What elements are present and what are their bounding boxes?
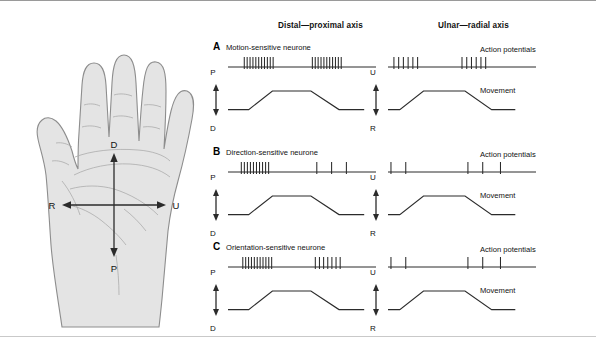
panel-title-c: Orientation-sensitive neurone bbox=[226, 243, 325, 252]
spike-train-c-distal-proximal bbox=[228, 256, 384, 277]
movement-trace-c-ulnar-radial bbox=[388, 285, 544, 323]
figure-root: D P R U Distal—proximal axis Ulnar—radia… bbox=[0, 0, 596, 337]
panel-letter-c: C bbox=[213, 241, 220, 252]
axis-label-top-b-distal-proximal: P bbox=[208, 173, 218, 182]
axis-label-top-a-distal-proximal: P bbox=[208, 68, 218, 77]
spike-train-c-ulnar-radial bbox=[388, 256, 544, 277]
label-movement-a: Movement bbox=[480, 86, 515, 95]
hand-axis-label-ulnar: U bbox=[173, 200, 180, 211]
axis-label-bottom-a-ulnar-radial: R bbox=[368, 124, 378, 133]
movement-trace-b-distal-proximal bbox=[228, 190, 384, 228]
column-header-ulnar-radial: Ulnar—radial axis bbox=[438, 21, 509, 30]
label-movement-b: Movement bbox=[480, 191, 515, 200]
movement-trace-a-distal-proximal bbox=[228, 85, 384, 123]
axis-label-bottom-b-distal-proximal: D bbox=[208, 229, 218, 238]
movement-trace-b-ulnar-radial bbox=[388, 190, 544, 228]
spike-train-a-ulnar-radial bbox=[388, 56, 544, 77]
spike-train-b-ulnar-radial bbox=[388, 161, 544, 182]
label-action-potentials-a: Action potentials bbox=[480, 45, 536, 54]
hand-axis-label-distal: D bbox=[111, 139, 118, 150]
hand-axis-label-proximal: P bbox=[111, 263, 117, 274]
spike-train-a-distal-proximal bbox=[228, 56, 384, 77]
panel-title-a: Motion-sensitive neurone bbox=[226, 43, 311, 52]
movement-trace-c-distal-proximal bbox=[228, 285, 384, 323]
axis-label-bottom-a-distal-proximal: D bbox=[208, 124, 218, 133]
spike-train-b-distal-proximal bbox=[228, 161, 384, 182]
axis-label-top-c-ulnar-radial: U bbox=[368, 268, 378, 277]
hand-outline bbox=[37, 55, 193, 327]
label-action-potentials-b: Action potentials bbox=[480, 150, 536, 159]
column-header-distal-proximal: Distal—proximal axis bbox=[278, 21, 363, 30]
axis-label-bottom-b-ulnar-radial: R bbox=[368, 229, 378, 238]
hand-diagram: D P R U bbox=[18, 9, 208, 331]
hand-axis-label-radial: R bbox=[49, 200, 56, 211]
label-action-potentials-c: Action potentials bbox=[480, 245, 536, 254]
panel-letter-b: B bbox=[213, 146, 220, 157]
axis-label-top-b-ulnar-radial: U bbox=[368, 173, 378, 182]
panel-letter-a: A bbox=[213, 41, 220, 52]
panel-title-b: Direction-sensitive neurone bbox=[226, 148, 318, 157]
hand-illustration: D P R U bbox=[18, 9, 208, 331]
movement-trace-a-ulnar-radial bbox=[388, 85, 544, 123]
axis-label-bottom-c-distal-proximal: D bbox=[208, 324, 218, 333]
axis-label-top-a-ulnar-radial: U bbox=[368, 68, 378, 77]
axis-label-top-c-distal-proximal: P bbox=[208, 268, 218, 277]
label-movement-c: Movement bbox=[480, 286, 515, 295]
axis-label-bottom-c-ulnar-radial: R bbox=[368, 324, 378, 333]
